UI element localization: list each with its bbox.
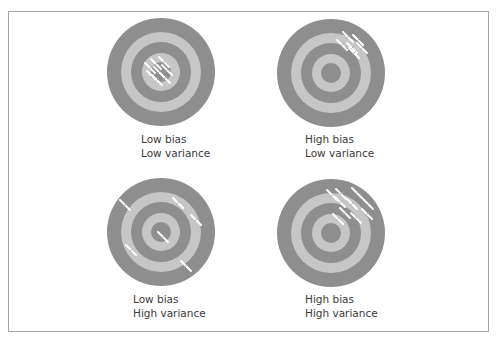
label-high-bias-low-variance: High bias Low variance — [305, 132, 374, 160]
target-high-bias-low-variance — [277, 19, 385, 127]
label-line-bias: High bias — [305, 292, 378, 306]
target-high-bias-high-variance — [277, 179, 385, 287]
label-line-variance: Low variance — [305, 146, 374, 160]
label-line-bias: High bias — [305, 132, 374, 146]
target-low-bias-low-variance — [107, 18, 215, 126]
target-ring — [321, 223, 341, 243]
target-ring — [321, 63, 341, 83]
targets-canvas — [0, 0, 496, 340]
target-low-bias-high-variance — [107, 178, 215, 286]
label-line-bias: Low bias — [133, 292, 206, 306]
label-line-variance: High variance — [133, 306, 206, 320]
label-low-bias-low-variance: Low bias Low variance — [141, 132, 210, 160]
label-line-variance: High variance — [305, 306, 378, 320]
label-low-bias-high-variance: Low bias High variance — [133, 292, 206, 320]
label-line-bias: Low bias — [141, 132, 210, 146]
label-line-variance: Low variance — [141, 146, 210, 160]
label-high-bias-high-variance: High bias High variance — [305, 292, 378, 320]
